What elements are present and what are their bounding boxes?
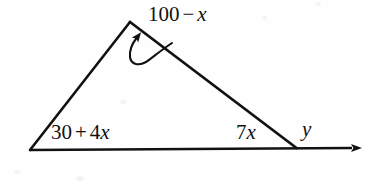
apex-angle-label: 100−x [148, 4, 207, 25]
left-operator: + [72, 120, 90, 144]
triangle-side-right [130, 22, 297, 148]
base-ray [30, 148, 352, 150]
right-coefficient: 7 [236, 120, 247, 144]
bottom-left-angle-label: 30+4x [51, 122, 110, 143]
apex-leader-arrow [130, 39, 172, 65]
left-variable: x [100, 120, 109, 144]
left-constant: 30 [51, 120, 72, 144]
bottom-right-angle-label: 7x [236, 122, 256, 143]
exterior-angle-label: y [302, 119, 311, 140]
right-variable: x [247, 120, 256, 144]
diagram-canvas [0, 0, 386, 189]
exterior-variable: y [302, 117, 311, 141]
geometry-figure: 100−x 30+4x 7x y [0, 0, 386, 189]
apex-variable: x [197, 2, 206, 26]
left-coefficient: 4 [90, 120, 101, 144]
apex-operator: − [180, 2, 198, 26]
apex-constant: 100 [148, 2, 180, 26]
